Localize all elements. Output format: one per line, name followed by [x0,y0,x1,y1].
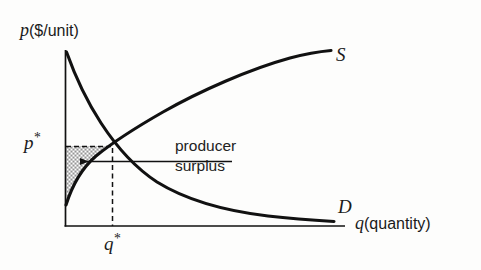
y-axis-units: ($/unit) [29,22,79,39]
annotation-line-2: surplus [175,156,236,176]
producer-surplus-annotation: producer surplus [175,136,236,176]
equilibrium-price-label: p* [24,133,41,152]
y-axis-title: p($/unit) [20,21,79,39]
price-star: * [34,130,41,145]
equilibrium-quantity-label: q* [104,234,121,253]
annotation-line-1: producer [175,136,236,156]
producer-surplus-region [66,146,112,205]
demand-curve-label: D [338,197,352,216]
demand-letter: D [338,196,352,217]
quantity-symbol: q [104,233,114,254]
y-axis-variable: p [20,20,29,40]
x-axis-title: q(quantity) [355,214,431,232]
price-symbol: p [24,132,34,153]
x-axis-variable: q [355,213,364,233]
supply-demand-figure: p($/unit) q(quantity) p* q* S D producer… [0,0,481,270]
quantity-star: * [114,231,121,246]
supply-curve-label: S [336,45,346,64]
supply-letter: S [336,44,346,65]
x-axis-units: (quantity) [364,215,431,232]
